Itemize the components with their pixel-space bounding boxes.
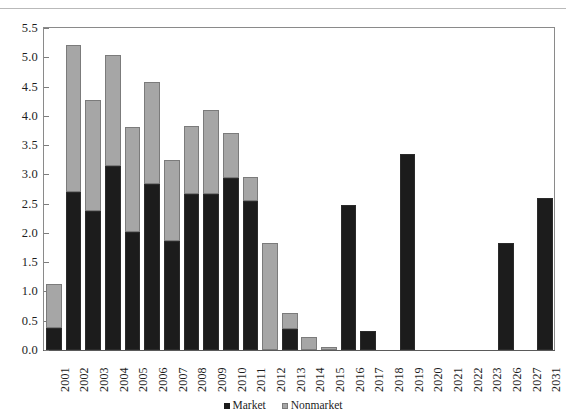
y-tick-label: 1.0 (4, 285, 38, 298)
x-tick-label: 2013 (295, 350, 307, 392)
y-tick-label: 2.0 (4, 227, 38, 240)
x-tick-label: 2023 (491, 350, 503, 392)
bar-segment-nonmarket (105, 55, 121, 166)
bar-group (105, 28, 121, 350)
x-tick-label: 2014 (314, 350, 326, 392)
bar-segment-market (144, 184, 160, 350)
legend-swatch-icon (224, 403, 230, 409)
bar-segment-market (243, 201, 259, 350)
y-tick-label: 5.0 (4, 51, 38, 64)
bar-segment-nonmarket (184, 126, 200, 194)
x-tick-label: 2021 (452, 350, 464, 392)
chart-legend: MarketNonmarket (0, 398, 566, 414)
bar-group (341, 28, 357, 350)
bar-group (419, 28, 435, 350)
bar-group (360, 28, 376, 350)
x-tick-label: 2017 (373, 350, 385, 392)
x-tick-label: 2001 (59, 350, 71, 392)
bar-series-container (44, 28, 555, 350)
x-tick-label: 2006 (157, 350, 169, 392)
y-tick-label: 0.0 (4, 344, 38, 357)
x-tick-label: 2004 (118, 350, 130, 392)
x-tick-label: 2018 (393, 350, 405, 392)
bar-segment-market (537, 198, 553, 350)
x-tick-label: 2031 (550, 350, 562, 392)
bar-segment-market (341, 205, 357, 350)
bar-segment-nonmarket (223, 133, 239, 177)
bar-segment-nonmarket (301, 337, 317, 350)
y-tick-label: 4.0 (4, 110, 38, 123)
legend-item: Market (224, 400, 266, 412)
bar-group (498, 28, 514, 350)
bar-segment-market (125, 232, 141, 350)
bar-group (243, 28, 259, 350)
bar-group (301, 28, 317, 350)
y-tick-label: 5.5 (4, 22, 38, 35)
x-tick-label: 2026 (511, 350, 523, 392)
bar-segment-nonmarket (144, 82, 160, 184)
y-tick-label: 3.5 (4, 139, 38, 152)
bar-segment-market (66, 192, 82, 350)
legend-label: Market (233, 400, 266, 412)
x-tick-label: 2016 (354, 350, 366, 392)
bar-group (144, 28, 160, 350)
x-tick-label: 2008 (196, 350, 208, 392)
bar-segment-nonmarket (262, 243, 278, 350)
x-tick-label: 2002 (78, 350, 90, 392)
legend-label: Nonmarket (291, 400, 343, 412)
bar-group (262, 28, 278, 350)
bar-segment-nonmarket (164, 160, 180, 240)
x-tick-label: 2009 (216, 350, 228, 392)
x-tick-label: 2019 (413, 350, 425, 392)
bar-group (282, 28, 298, 350)
bar-group (125, 28, 141, 350)
bar-segment-nonmarket (282, 313, 298, 329)
chart-figure: 0.00.51.01.52.02.53.03.54.04.55.05.5 200… (0, 0, 566, 416)
bar-segment-market (105, 166, 121, 350)
x-tick-label: 2005 (137, 350, 149, 392)
bar-segment-market (164, 241, 180, 350)
bar-group (518, 28, 534, 350)
x-tick-label: 2007 (177, 350, 189, 392)
y-tick-label: 2.5 (4, 198, 38, 211)
y-tick-label: 0.5 (4, 315, 38, 328)
bar-segment-nonmarket (243, 177, 259, 201)
bar-segment-market (184, 194, 200, 350)
bar-group (439, 28, 455, 350)
bar-group (380, 28, 396, 350)
legend-swatch-icon (282, 403, 288, 409)
bar-group (66, 28, 82, 350)
bar-segment-market (223, 178, 239, 350)
y-tick-label: 4.5 (4, 81, 38, 94)
bar-segment-market (498, 243, 514, 350)
bar-segment-nonmarket (66, 45, 82, 192)
x-tick-label: 2015 (334, 350, 346, 392)
bar-group (184, 28, 200, 350)
bar-group (537, 28, 553, 350)
page-top-rule (0, 8, 566, 9)
bar-group (459, 28, 475, 350)
bar-segment-market (46, 328, 62, 350)
bar-group (223, 28, 239, 350)
y-tick-label: 1.5 (4, 256, 38, 269)
bar-segment-market (85, 211, 101, 350)
bar-segment-market (360, 331, 376, 350)
x-tick-label: 2022 (472, 350, 484, 392)
bar-group (164, 28, 180, 350)
bar-group (46, 28, 62, 350)
x-tick-label: 2020 (432, 350, 444, 392)
y-tick-label: 3.0 (4, 168, 38, 181)
bar-segment-nonmarket (85, 100, 101, 211)
bar-segment-market (203, 194, 219, 350)
x-tick-label: 2027 (531, 350, 543, 392)
y-tick-mark (44, 350, 49, 351)
bar-group (203, 28, 219, 350)
bar-segment-nonmarket (125, 127, 141, 232)
bar-segment-market (282, 329, 298, 350)
legend-item: Nonmarket (282, 400, 343, 412)
bar-segment-market (400, 154, 416, 350)
bar-group (85, 28, 101, 350)
x-tick-label: 2010 (236, 350, 248, 392)
bar-segment-nonmarket (46, 284, 62, 327)
bar-group (400, 28, 416, 350)
